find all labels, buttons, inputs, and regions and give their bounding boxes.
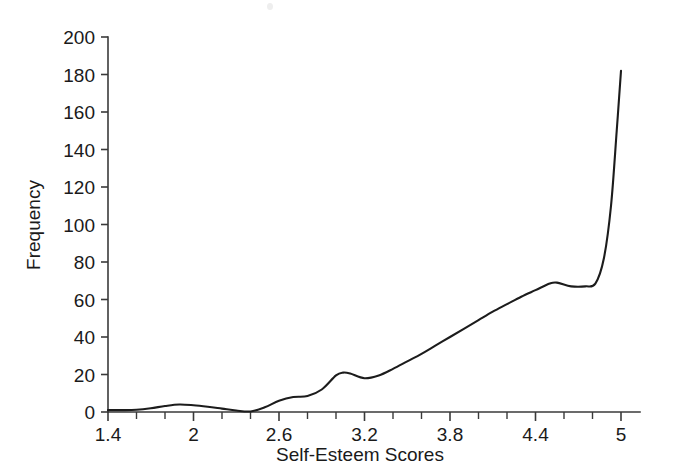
x-axis-tick-labels: 1.422.63.23.84.45 bbox=[95, 424, 627, 445]
y-tick-label-160: 160 bbox=[63, 102, 95, 123]
y-axis-title: Frequency bbox=[23, 180, 44, 270]
y-tick-label-120: 120 bbox=[63, 177, 95, 198]
chart-figure: 020406080100120140160180200 1.422.63.23.… bbox=[0, 0, 675, 476]
x-tick-label-1-4: 1.4 bbox=[95, 424, 122, 445]
y-tick-label-80: 80 bbox=[74, 252, 95, 273]
frequency-line-chart: 020406080100120140160180200 1.422.63.23.… bbox=[0, 0, 675, 476]
y-tick-label-100: 100 bbox=[63, 215, 95, 236]
y-tick-label-0: 0 bbox=[84, 402, 95, 423]
y-tick-label-60: 60 bbox=[74, 290, 95, 311]
x-tick-label-5: 5 bbox=[616, 424, 627, 445]
x-tick-label-4-4: 4.4 bbox=[522, 424, 549, 445]
x-tick-label-3-2: 3.2 bbox=[351, 424, 377, 445]
x-tick-label-3-8: 3.8 bbox=[437, 424, 463, 445]
y-tick-label-20: 20 bbox=[74, 365, 95, 386]
y-tick-label-200: 200 bbox=[63, 27, 95, 48]
y-tick-label-140: 140 bbox=[63, 140, 95, 161]
y-axis-tick-labels: 020406080100120140160180200 bbox=[63, 27, 95, 423]
y-axis-ticks bbox=[101, 37, 108, 412]
x-axis-ticks bbox=[108, 412, 621, 421]
x-axis-title: Self-Esteem Scores bbox=[276, 444, 444, 465]
x-tick-label-2-6: 2.6 bbox=[266, 424, 292, 445]
y-tick-label-40: 40 bbox=[74, 327, 95, 348]
frequency-curve bbox=[108, 71, 621, 412]
x-tick-label-2: 2 bbox=[188, 424, 199, 445]
y-tick-label-180: 180 bbox=[63, 65, 95, 86]
